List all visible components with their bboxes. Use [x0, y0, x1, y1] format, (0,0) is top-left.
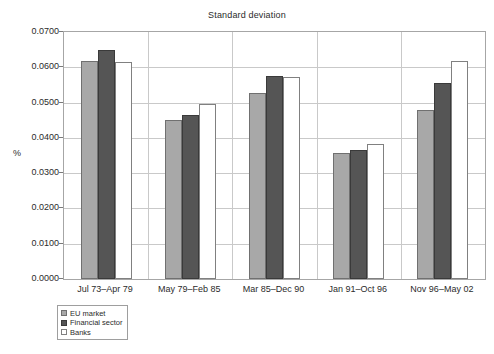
x-axis-tick-labels: Jul 73–Apr 79May 79–Feb 85Mar 85–Dec 90J… [63, 284, 486, 300]
chart-legend: EU marketFinancial sectorBanks [57, 305, 128, 340]
y-axis-tick-label: 0.0000 [9, 273, 59, 283]
legend-item: Banks [61, 328, 123, 337]
bar [283, 77, 300, 279]
y-axis-tick-label: 0.0400 [9, 132, 59, 142]
bar [98, 50, 115, 279]
legend-label: Financial sector [70, 318, 123, 327]
y-axis-tick-labels: 0.00000.01000.02000.03000.04000.05000.06… [7, 31, 59, 280]
y-axis-tick-label: 0.0500 [9, 97, 59, 107]
bar [367, 144, 384, 279]
category-separator [401, 32, 402, 279]
bar [350, 150, 367, 279]
x-axis-tick-label: May 79–Feb 85 [147, 284, 231, 294]
legend-label: Banks [70, 328, 91, 337]
legend-swatch-icon [61, 329, 67, 335]
y-axis-tick-label: 0.0200 [9, 202, 59, 212]
bar [81, 61, 98, 279]
y-axis-tick-label: 0.0600 [9, 61, 59, 71]
x-axis-tick-label: Jul 73–Apr 79 [63, 284, 147, 294]
legend-item: EU market [61, 309, 123, 318]
bar [266, 76, 283, 279]
legend-swatch-icon [61, 310, 67, 316]
y-axis-tick-label: 0.0700 [9, 26, 59, 36]
category-separator [232, 32, 233, 279]
bar-group [81, 32, 132, 279]
standard-deviation-bar-chart: Standard deviation % 0.00000.01000.02000… [0, 0, 494, 354]
bar [182, 115, 199, 279]
bar-group [417, 32, 468, 279]
bar [434, 83, 451, 279]
bar [199, 104, 216, 279]
x-axis-tick-label: Mar 85–Dec 90 [231, 284, 315, 294]
category-separator [148, 32, 149, 279]
bar [249, 93, 266, 279]
bar [333, 153, 350, 279]
bar-group [333, 32, 384, 279]
bar-group [249, 32, 300, 279]
legend-label: EU market [70, 309, 105, 318]
y-axis-tick-label: 0.0300 [9, 167, 59, 177]
plot-area [63, 31, 486, 280]
legend-swatch-icon [61, 320, 67, 326]
chart-title: Standard deviation [0, 10, 494, 20]
x-axis-tick-label: Jan 91–Oct 96 [316, 284, 400, 294]
category-separator [317, 32, 318, 279]
y-axis-tick-label: 0.0100 [9, 238, 59, 248]
bar [451, 61, 468, 279]
bar-group [165, 32, 216, 279]
x-axis-tick-label: Nov 96–May 02 [400, 284, 484, 294]
bar [165, 120, 182, 279]
bar [417, 110, 434, 279]
legend-item: Financial sector [61, 318, 123, 327]
bar [115, 62, 132, 279]
